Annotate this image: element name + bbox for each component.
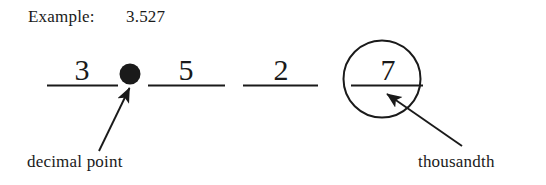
example-label: Example: (28, 8, 95, 25)
hundredths-digit: 2 (261, 55, 301, 85)
decimal-point-caption: decimal point (27, 153, 123, 170)
decimal-point-marker (120, 64, 141, 85)
thousandths-digit: 7 (368, 55, 408, 85)
tenths-digit: 5 (166, 55, 206, 85)
example-value: 3.527 (126, 8, 165, 25)
decimal-place-value-figure: Example: 3.527 3 5 2 7 decimal point tho… (0, 0, 546, 185)
thousandth-caption: thousandth (418, 153, 495, 170)
ones-digit: 3 (62, 55, 102, 85)
thousandth-arrow (387, 94, 462, 146)
decimal-point-arrow (99, 88, 130, 151)
